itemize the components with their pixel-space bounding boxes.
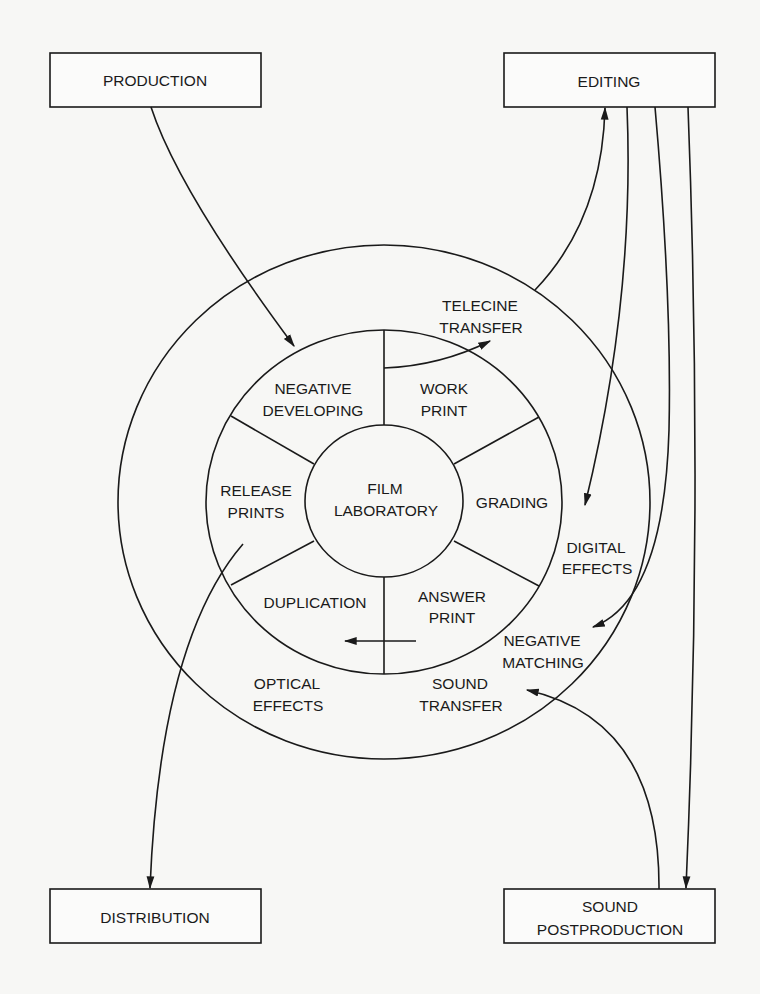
outer-sound-transfer: SOUND TRANSFER bbox=[419, 675, 503, 714]
sound-transfer-line1: SOUND bbox=[432, 675, 488, 692]
arrow-release-prints-to-distribution bbox=[150, 544, 243, 888]
outer-negative-matching: NEGATIVE MATCHING bbox=[502, 632, 584, 671]
sector-duplication: DUPLICATION bbox=[263, 594, 366, 611]
arrow-editing-to-sound-postproduction bbox=[686, 107, 695, 888]
box-distribution[interactable]: DISTRIBUTION bbox=[50, 889, 261, 943]
sound-transfer-line2: TRANSFER bbox=[419, 697, 503, 714]
center-label: FILM LABORATORY bbox=[334, 480, 438, 519]
outer-telecine-transfer: TELECINE TRANSFER bbox=[439, 297, 523, 336]
digital-effects-line2: EFFECTS bbox=[562, 560, 633, 577]
arrow-production-to-negative-developing bbox=[151, 107, 294, 346]
box-editing-label: EDITING bbox=[578, 73, 641, 90]
optical-effects-line1: OPTICAL bbox=[254, 675, 321, 692]
arrow-editing-to-digital-effects bbox=[585, 107, 628, 505]
negative-matching-line2: MATCHING bbox=[502, 654, 584, 671]
box-sound-postproduction[interactable]: SOUND POSTPRODUCTION bbox=[504, 889, 715, 943]
arrow-telecine-to-editing bbox=[535, 108, 605, 290]
optical-effects-line2: EFFECTS bbox=[253, 697, 324, 714]
outer-digital-effects: DIGITAL EFFECTS bbox=[562, 539, 633, 577]
release-prints-line2: PRINTS bbox=[228, 504, 285, 521]
sector-grading: GRADING bbox=[476, 494, 548, 511]
work-print-line1: WORK bbox=[420, 380, 469, 397]
digital-effects-line1: DIGITAL bbox=[566, 539, 626, 556]
duplication-label: DUPLICATION bbox=[263, 594, 366, 611]
negative-matching-line1: NEGATIVE bbox=[503, 632, 580, 649]
center-label-line2: LABORATORY bbox=[334, 502, 438, 519]
center-label-line1: FILM bbox=[367, 480, 402, 497]
box-production-label: PRODUCTION bbox=[103, 72, 207, 89]
negative-developing-line1: NEGATIVE bbox=[274, 380, 351, 397]
film-laboratory-diagram: PRODUCTION EDITING DISTRIBUTION SOUND PO… bbox=[0, 0, 760, 994]
answer-print-line2: PRINT bbox=[429, 609, 476, 626]
box-production[interactable]: PRODUCTION bbox=[50, 53, 261, 107]
sector-negative-developing: NEGATIVE DEVELOPING bbox=[263, 380, 364, 419]
center-circle bbox=[305, 425, 463, 577]
answer-print-line1: ANSWER bbox=[418, 588, 486, 605]
release-prints-line1: RELEASE bbox=[220, 482, 292, 499]
box-editing[interactable]: EDITING bbox=[504, 53, 715, 107]
sector-work-print: WORK PRINT bbox=[420, 380, 469, 419]
grading-label: GRADING bbox=[476, 494, 548, 511]
box-sound-postproduction-line2: POSTPRODUCTION bbox=[537, 921, 683, 938]
telecine-transfer-line2: TRANSFER bbox=[439, 319, 523, 336]
sector-answer-print: ANSWER PRINT bbox=[418, 588, 486, 626]
negative-developing-line2: DEVELOPING bbox=[263, 402, 364, 419]
outer-optical-effects: OPTICAL EFFECTS bbox=[253, 675, 324, 714]
sector-release-prints: RELEASE PRINTS bbox=[220, 482, 292, 521]
box-sound-postproduction-line1: SOUND bbox=[582, 898, 638, 915]
work-print-line2: PRINT bbox=[421, 402, 468, 419]
telecine-transfer-line1: TELECINE bbox=[442, 297, 518, 314]
box-distribution-label: DISTRIBUTION bbox=[100, 909, 209, 926]
arrow-sound-postproduction-to-sound-transfer bbox=[527, 690, 659, 889]
